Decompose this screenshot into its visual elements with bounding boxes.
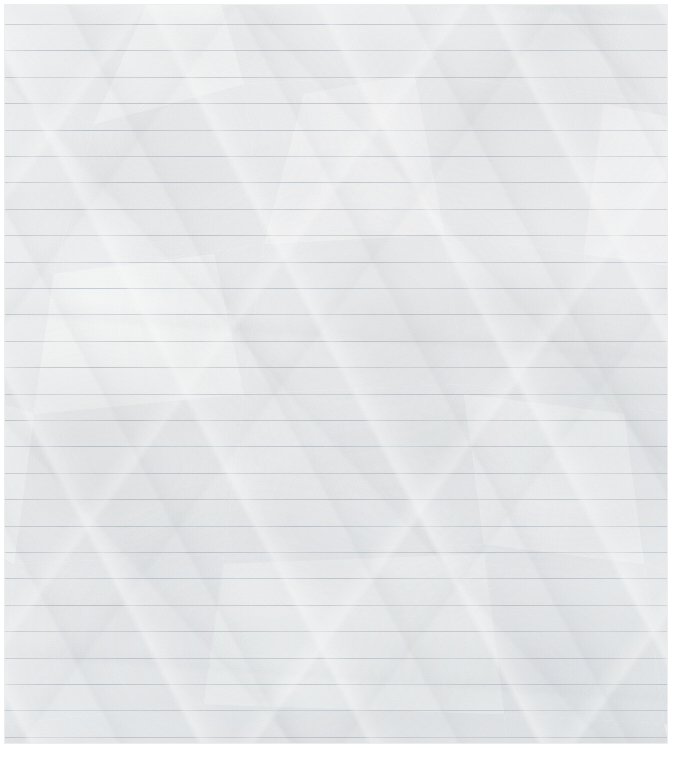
writing-area[interactable] xyxy=(4,4,668,744)
paper-canvas xyxy=(0,0,674,758)
